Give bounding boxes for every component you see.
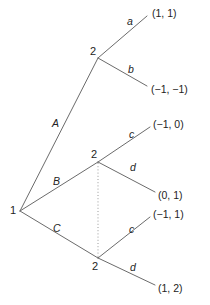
edge-root-to-bottom-node xyxy=(20,211,98,258)
game-tree-edges xyxy=(0,0,210,305)
edge-middle-action-d xyxy=(98,162,155,192)
node-label-player-2-bottom: 2 xyxy=(92,261,98,272)
action-label-a-top: a xyxy=(127,16,133,27)
payoff-label-middle-d: (0, 1) xyxy=(158,190,183,201)
action-label-d-middle: d xyxy=(130,162,136,173)
node-label-player-2-middle: 2 xyxy=(91,149,97,160)
edge-top-action-b xyxy=(98,58,147,86)
node-label-player-2-top: 2 xyxy=(90,46,96,57)
payoff-label-top-b: (−1, −1) xyxy=(151,84,188,95)
action-label-B: B xyxy=(53,176,60,187)
payoff-label-middle-c: (−1, 0) xyxy=(153,119,184,130)
action-label-b-top: b xyxy=(128,64,134,75)
action-label-c-bottom: c xyxy=(129,224,134,235)
game-tree-figure: 1 2 2 2 A B C a b c d c d (1, 1) (−1, −1… xyxy=(0,0,210,305)
payoff-label-top-a: (1, 1) xyxy=(152,8,177,19)
node-label-player-1-root: 1 xyxy=(10,205,16,216)
action-label-d-bottom: d xyxy=(130,262,136,273)
payoff-label-bottom-c: (−1, 1) xyxy=(153,209,184,220)
edge-middle-action-c xyxy=(98,127,150,162)
edge-root-to-top-node xyxy=(20,58,98,211)
action-label-C: C xyxy=(53,223,61,234)
payoff-label-bottom-d: (1, 2) xyxy=(158,283,183,294)
edge-bottom-action-d xyxy=(98,258,155,285)
edge-bottom-action-c xyxy=(98,217,150,258)
action-label-c-middle: c xyxy=(129,129,134,140)
edge-top-action-a xyxy=(98,16,147,58)
action-label-A: A xyxy=(52,118,59,129)
